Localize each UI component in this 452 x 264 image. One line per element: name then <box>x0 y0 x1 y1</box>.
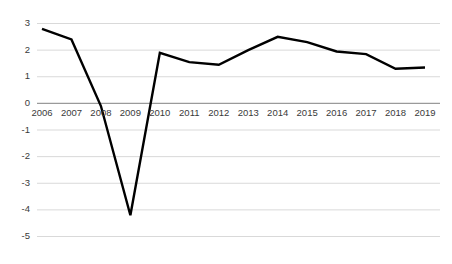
y-tick-label: -3 <box>4 178 30 188</box>
x-tick-label: 2017 <box>351 108 381 118</box>
y-tick-label: 0 <box>4 98 30 108</box>
x-tick-label: 2007 <box>56 108 86 118</box>
y-tick-label: -2 <box>4 151 30 161</box>
x-tick-label: 2010 <box>145 108 175 118</box>
y-tick-label: -4 <box>4 204 30 214</box>
data-line-series <box>42 29 425 215</box>
line-chart: 3210-1-2-3-4-5 2006200720082009201020112… <box>0 0 452 264</box>
y-tick-label: -5 <box>4 231 30 241</box>
x-tick-label: 2015 <box>292 108 322 118</box>
y-tick-label: 1 <box>4 71 30 81</box>
x-tick-label: 2009 <box>115 108 145 118</box>
x-tick-label: 2018 <box>381 108 411 118</box>
x-tick-label: 2014 <box>263 108 293 118</box>
data-line <box>42 29 425 215</box>
chart-canvas <box>0 0 452 264</box>
y-tick-label: -1 <box>4 125 30 135</box>
x-tick-label: 2011 <box>174 108 204 118</box>
x-tick-label: 2006 <box>27 108 57 118</box>
plot-area: 3210-1-2-3-4-5 2006200720082009201020112… <box>0 0 452 264</box>
x-tick-label: 2013 <box>233 108 263 118</box>
x-tick-label: 2008 <box>86 108 116 118</box>
x-tick-label: 2012 <box>204 108 234 118</box>
y-tick-label: 2 <box>4 45 30 55</box>
x-tick-label: 2019 <box>410 108 440 118</box>
y-tick-label: 3 <box>4 18 30 28</box>
x-tick-label: 2016 <box>322 108 352 118</box>
